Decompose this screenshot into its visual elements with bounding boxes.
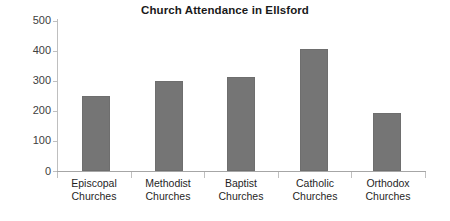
x-tick-mark-5 [425, 172, 426, 178]
y-tick-label-200: 200 [33, 105, 51, 116]
bar-chart: Church Attendance in Ellsford 500 400 30… [0, 0, 450, 221]
y-tick-mark-100 [53, 141, 57, 142]
y-tick-mark-500 [53, 21, 57, 22]
x-category-label-catholic-line1: Catholic [278, 177, 352, 190]
x-category-label-methodist-line1: Methodist [131, 177, 205, 190]
y-tick-label-500: 500 [33, 15, 51, 26]
y-tick-mark-200 [53, 111, 57, 112]
x-category-label-catholic-line2: Churches [278, 190, 352, 203]
y-axis-labels: 500 400 300 200 100 0 [0, 0, 51, 221]
bar-episcopal-churches [82, 96, 110, 171]
y-tick-label-300: 300 [33, 75, 51, 86]
y-tick-mark-400 [53, 51, 57, 52]
bar-methodist-churches [155, 81, 183, 171]
x-category-label-baptist: Baptist Churches [204, 177, 278, 203]
plot-area [57, 21, 426, 171]
x-category-label-catholic: Catholic Churches [278, 177, 352, 203]
x-category-label-episcopal-line2: Churches [57, 190, 131, 203]
x-category-label-methodist: Methodist Churches [131, 177, 205, 203]
x-category-label-episcopal-line1: Episcopal [57, 177, 131, 190]
bar-baptist-churches [227, 77, 255, 171]
x-axis-line [57, 171, 426, 172]
bar-orthodox-churches [373, 113, 401, 172]
x-category-label-episcopal: Episcopal Churches [57, 177, 131, 203]
chart-title: Church Attendance in Ellsford [0, 4, 450, 16]
x-category-label-methodist-line2: Churches [131, 190, 205, 203]
x-category-label-baptist-line2: Churches [204, 190, 278, 203]
x-category-label-orthodox-line2: Churches [351, 190, 425, 203]
y-tick-mark-300 [53, 81, 57, 82]
x-category-label-baptist-line1: Baptist [204, 177, 278, 190]
y-tick-label-100: 100 [33, 135, 51, 146]
bar-catholic-churches [300, 49, 328, 171]
y-tick-label-0: 0 [45, 166, 51, 177]
x-category-label-orthodox-line1: Orthodox [351, 177, 425, 190]
y-tick-label-400: 400 [33, 45, 51, 56]
x-category-label-orthodox: Orthodox Churches [351, 177, 425, 203]
